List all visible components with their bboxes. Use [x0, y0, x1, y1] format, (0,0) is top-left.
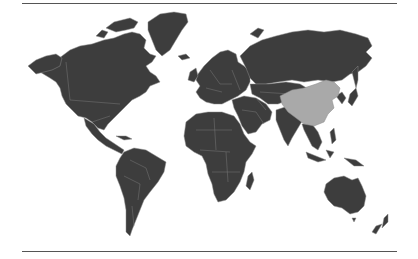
europe [178, 50, 250, 104]
tasmania [352, 218, 356, 222]
country-madagascar [246, 172, 254, 190]
bottom-rule [22, 251, 397, 252]
south-america [116, 148, 166, 236]
indonesia [306, 150, 364, 166]
country-iceland [178, 54, 190, 60]
south-america-continent [116, 148, 166, 236]
arctic-islands [106, 18, 138, 32]
southeast-asia [302, 124, 322, 150]
country-canada-usa [40, 32, 160, 130]
country-russia [240, 30, 372, 84]
russia-arctic-islands [250, 28, 264, 38]
philippines [330, 128, 336, 144]
country-greenland [148, 12, 188, 56]
north-america [28, 12, 188, 154]
country-australia [324, 176, 366, 214]
russia [240, 28, 372, 88]
cuba [116, 136, 132, 140]
arctic-islands-2 [96, 30, 108, 38]
world-map [0, 0, 418, 259]
country-new-zealand [372, 214, 388, 234]
